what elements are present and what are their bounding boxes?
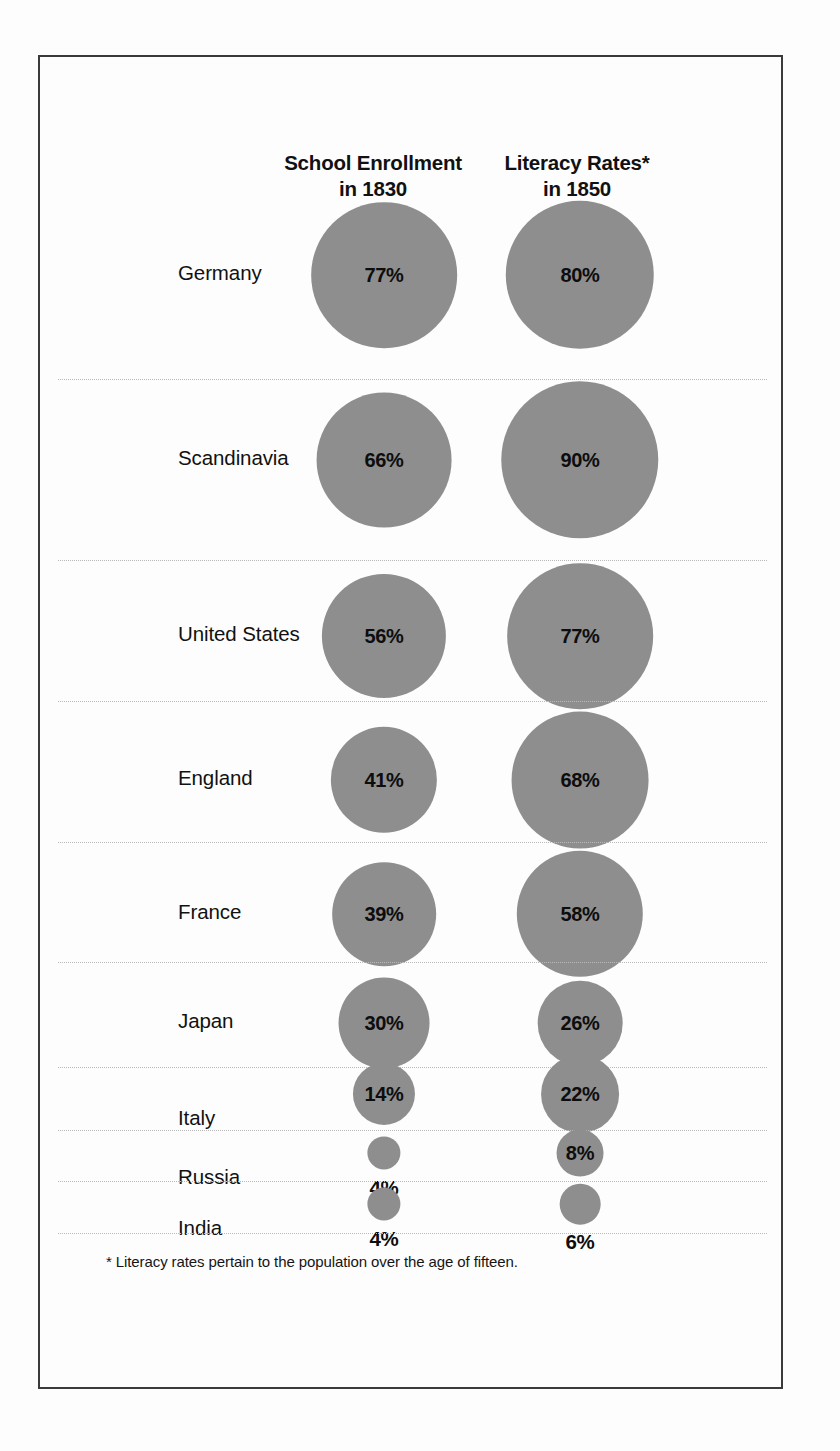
bubble-value-enrollment-italy: 14% — [364, 1083, 403, 1106]
row-separator — [58, 1067, 767, 1068]
bubble-value-literacy-france: 58% — [560, 903, 599, 926]
bubble-value-enrollment-france: 39% — [364, 903, 403, 926]
bubble-value-literacy-scandinavia: 90% — [560, 449, 599, 472]
column-header-literacy: Literacy Rates* in 1850 — [472, 150, 682, 202]
row-label-germany: Germany — [178, 261, 262, 285]
bubble-value-literacy-england: 68% — [560, 769, 599, 792]
bubble-value-literacy-japan: 26% — [560, 1012, 599, 1035]
bubble-value-enrollment-england: 41% — [364, 769, 403, 792]
chart-frame: School Enrollment in 1830 Literacy Rates… — [38, 55, 783, 1389]
column-header-literacy-line2: in 1850 — [472, 176, 682, 202]
chart-plot-area: School Enrollment in 1830 Literacy Rates… — [40, 57, 781, 1387]
row-label-scandinavia: Scandinavia — [178, 446, 289, 470]
row-separator — [58, 1130, 767, 1131]
chart-footnote: * Literacy rates pertain to the populati… — [106, 1253, 518, 1270]
row-label-russia: Russia — [178, 1165, 240, 1189]
column-header-enrollment-line1: School Enrollment — [284, 151, 462, 174]
bubble-value-literacy-italy: 22% — [560, 1083, 599, 1106]
bubble-value-literacy-germany: 80% — [560, 264, 599, 287]
row-separator — [58, 379, 767, 380]
row-label-india: India — [178, 1216, 222, 1240]
bubble-value-literacy-russia: 8% — [566, 1142, 594, 1165]
bubble-value-enrollment-japan: 30% — [364, 1012, 403, 1035]
row-separator — [58, 1181, 767, 1182]
column-header-enrollment: School Enrollment in 1830 — [268, 150, 478, 202]
column-header-enrollment-line2: in 1830 — [268, 176, 478, 202]
bubble-value-enrollment-germany: 77% — [364, 264, 403, 287]
bubble-enrollment-india — [367, 1187, 400, 1220]
bubble-value-enrollment-india: 4% — [369, 1227, 398, 1251]
row-label-england: England — [178, 766, 253, 790]
bubble-value-enrollment-united-states: 56% — [364, 625, 403, 648]
row-separator — [58, 1233, 767, 1234]
row-label-italy: Italy — [178, 1106, 215, 1130]
bubble-enrollment-russia — [367, 1136, 400, 1169]
bubble-value-literacy-united-states: 77% — [560, 625, 599, 648]
row-label-japan: Japan — [178, 1009, 233, 1033]
row-label-france: France — [178, 900, 241, 924]
column-header-literacy-line1: Literacy Rates* — [504, 151, 649, 174]
row-separator — [58, 842, 767, 843]
bubble-value-enrollment-scandinavia: 66% — [364, 449, 403, 472]
row-separator — [58, 701, 767, 702]
row-separator — [58, 560, 767, 561]
bubble-literacy-india — [560, 1184, 601, 1225]
row-separator — [58, 962, 767, 963]
row-label-united-states: United States — [178, 622, 300, 646]
